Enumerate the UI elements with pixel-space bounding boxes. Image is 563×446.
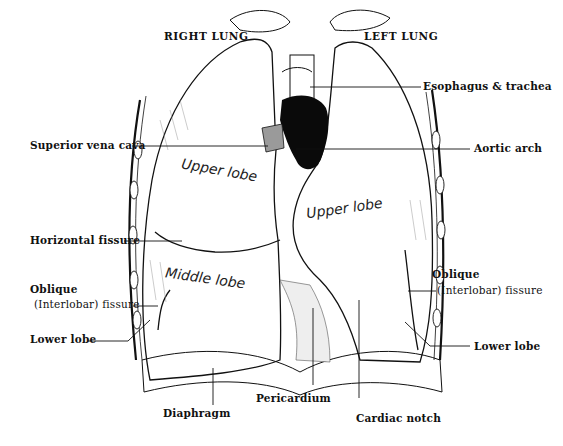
superior-vena-cava-shape xyxy=(262,124,284,152)
label-superior-vena-cava: Superior vena cava xyxy=(30,139,146,151)
label-aortic-arch: Aortic arch xyxy=(474,142,542,154)
diaphragm-curve xyxy=(142,351,442,395)
label-oblique-left-line1: Oblique xyxy=(30,283,78,295)
label-pericardium: Pericardium xyxy=(256,392,331,404)
label-horizontal-fissure: Horizontal fissure xyxy=(30,234,140,246)
aortic-arch-shape xyxy=(280,96,328,170)
label-lower-lobe-left: Lower lobe xyxy=(30,333,96,345)
label-diaphragm: Diaphragm xyxy=(163,407,230,419)
left-lung-title: LEFT LUNG xyxy=(364,30,438,42)
label-oblique-right-line1: Oblique xyxy=(432,268,480,280)
right-lung-outline xyxy=(143,39,281,380)
right-lung-title: RIGHT LUNG xyxy=(164,30,249,42)
label-lower-lobe-right: Lower lobe xyxy=(474,340,540,352)
label-oblique-right-line2: (Interlobar) fissure xyxy=(437,284,543,296)
oblique-fissure-right-line xyxy=(158,290,170,330)
oblique-fissure-left-line xyxy=(405,250,418,350)
label-esophagus-trachea: Esophagus & trachea xyxy=(423,80,552,92)
pericardium-region xyxy=(280,280,330,362)
horizontal-fissure-line xyxy=(155,232,280,252)
label-oblique-left-line2: (Interlobar) fissure xyxy=(34,298,140,310)
label-cardiac-notch: Cardiac notch xyxy=(356,412,441,424)
lung-illustration xyxy=(0,0,563,446)
